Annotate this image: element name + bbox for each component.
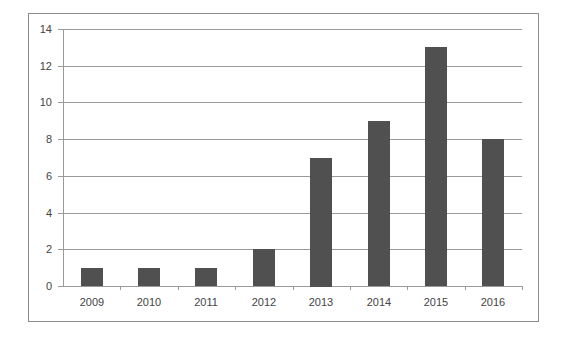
y-tick-label: 4 bbox=[28, 207, 52, 219]
x-tick-label: 2009 bbox=[67, 296, 117, 308]
gridline bbox=[58, 139, 522, 140]
y-tick-label: 8 bbox=[28, 133, 52, 145]
bar-2011 bbox=[195, 268, 217, 286]
x-tick bbox=[407, 286, 408, 290]
bar-2014 bbox=[368, 121, 390, 286]
bar-2010 bbox=[138, 268, 160, 286]
x-tick-label: 2011 bbox=[181, 296, 231, 308]
gridline bbox=[58, 66, 522, 67]
x-tick-label: 2014 bbox=[354, 296, 404, 308]
y-tick-label: 2 bbox=[28, 243, 52, 255]
x-tick bbox=[120, 286, 121, 290]
x-tick bbox=[235, 286, 236, 290]
bar-2013 bbox=[310, 158, 332, 287]
y-tick-label: 0 bbox=[28, 280, 52, 292]
gridline bbox=[58, 286, 522, 287]
x-tick-label: 2010 bbox=[124, 296, 174, 308]
gridline bbox=[58, 213, 522, 214]
x-tick bbox=[465, 286, 466, 290]
y-tick-label: 6 bbox=[28, 170, 52, 182]
chart-frame bbox=[28, 13, 539, 322]
y-tick-label: 12 bbox=[28, 60, 52, 72]
gridline bbox=[58, 176, 522, 177]
y-tick-label: 10 bbox=[28, 96, 52, 108]
bar-2016 bbox=[482, 139, 504, 286]
x-tick bbox=[293, 286, 294, 290]
gridline bbox=[58, 29, 522, 30]
x-tick-label: 2015 bbox=[411, 296, 461, 308]
bar-2009 bbox=[81, 268, 103, 286]
x-tick bbox=[350, 286, 351, 290]
x-tick-label: 2016 bbox=[468, 296, 518, 308]
y-axis bbox=[63, 29, 64, 286]
x-tick bbox=[522, 286, 523, 290]
gridline bbox=[58, 102, 522, 103]
x-tick-label: 2013 bbox=[296, 296, 346, 308]
x-tick bbox=[178, 286, 179, 290]
bar-2015 bbox=[425, 47, 447, 286]
bar-2012 bbox=[253, 249, 275, 286]
y-tick-label: 14 bbox=[28, 23, 52, 35]
x-tick-label: 2012 bbox=[239, 296, 289, 308]
gridline bbox=[58, 249, 522, 250]
